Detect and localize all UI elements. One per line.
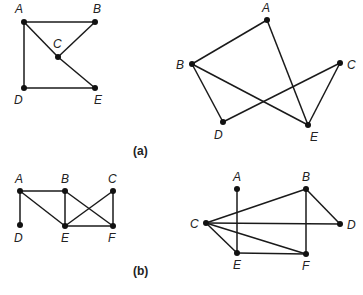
edge-b-right-BD (306, 189, 340, 224)
vertex-label-b-left-E: E (61, 231, 70, 245)
vertex-label-a-left-E: E (94, 93, 103, 107)
graph-figure: ABCDEABCDEABCDEFABCDEF (a) (b) (0, 0, 363, 295)
vertex-b-right-B (303, 186, 309, 192)
vertex-b-left-E (62, 223, 68, 229)
vertex-b-right-D (337, 221, 343, 227)
vertex-b-left-A (17, 188, 23, 194)
vertex-label-a-right-C: C (347, 58, 356, 72)
vertex-label-b-left-D: D (14, 231, 23, 245)
vertex-label-a-right-B: B (176, 58, 184, 72)
edge-a-right-AB (192, 20, 267, 64)
nodes-layer (17, 17, 343, 257)
vertex-label-a-left-C: C (53, 37, 62, 51)
edge-b-left-AE (20, 191, 65, 226)
vertex-a-left-E (92, 85, 98, 91)
vertex-label-a-left-B: B (93, 2, 101, 16)
vertex-b-left-B (62, 188, 68, 194)
vertex-label-a-right-D: D (214, 128, 223, 142)
vertex-label-b-right-B: B (302, 170, 310, 184)
vertex-b-right-A (234, 186, 240, 192)
labels-layer: ABCDEABCDEABCDEFABCDEF (14, 1, 356, 273)
vertex-label-a-left-A: A (14, 2, 23, 16)
caption-a: (a) (133, 144, 148, 158)
vertex-label-b-right-D: D (347, 218, 356, 232)
vertex-a-right-E (305, 122, 311, 128)
vertex-label-b-right-C: C (190, 217, 199, 231)
edge-a-left-CB (58, 22, 95, 57)
vertex-label-b-right-F: F (302, 259, 310, 273)
edge-a-right-DC (223, 63, 340, 122)
vertex-a-right-B (189, 61, 195, 67)
vertex-b-right-F (303, 251, 309, 257)
vertex-label-a-right-E: E (310, 130, 319, 144)
vertex-a-right-A (264, 17, 270, 23)
vertex-b-right-E (234, 250, 240, 256)
vertex-a-left-B (92, 19, 98, 25)
edge-b-right-EF (237, 253, 306, 254)
vertex-a-right-C (337, 60, 343, 66)
edges-layer (20, 20, 340, 254)
vertex-a-left-C (55, 54, 61, 60)
vertex-label-b-right-E: E (233, 258, 242, 272)
edge-a-right-BE (192, 64, 308, 125)
edge-b-right-CB (206, 189, 306, 223)
vertex-a-left-A (21, 19, 27, 25)
vertex-label-b-left-F: F (108, 231, 116, 245)
edge-a-right-CE (308, 63, 340, 125)
vertex-label-b-left-B: B (61, 172, 69, 186)
vertex-label-b-right-A: A (232, 170, 241, 184)
edge-b-right-CD (206, 223, 340, 224)
edge-a-left-CE (58, 57, 95, 88)
vertex-b-left-C (110, 188, 116, 194)
vertex-b-left-F (110, 223, 116, 229)
vertex-label-a-left-D: D (14, 93, 23, 107)
vertex-a-left-D (21, 85, 27, 91)
vertex-label-b-left-C: C (108, 172, 117, 186)
vertex-label-a-right-A: A (261, 1, 270, 15)
vertex-label-b-left-A: A (14, 172, 23, 186)
vertex-a-right-D (220, 119, 226, 125)
vertex-b-left-D (17, 222, 23, 228)
edge-a-right-AE (267, 20, 308, 125)
vertex-b-right-C (203, 220, 209, 226)
caption-b: (b) (133, 264, 148, 278)
